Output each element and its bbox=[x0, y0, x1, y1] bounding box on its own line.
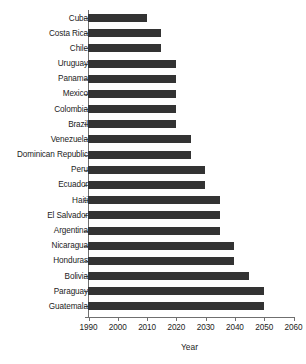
bar-category-label: Colombia bbox=[0, 105, 88, 114]
bar-category-label: Panama bbox=[0, 74, 88, 83]
bar bbox=[88, 181, 205, 189]
bar-category-label: Ecuador bbox=[0, 180, 88, 189]
bar-category-label: Dominican Republic bbox=[0, 150, 88, 159]
bar bbox=[88, 211, 220, 219]
bar bbox=[88, 120, 176, 128]
x-axis-tick bbox=[294, 317, 295, 321]
bar-category-label: Honduras bbox=[0, 256, 88, 265]
x-axis-tick bbox=[235, 317, 236, 321]
bar-category-label: Uruguay bbox=[0, 59, 88, 68]
bar bbox=[88, 151, 191, 159]
bar-category-label: Peru bbox=[0, 165, 88, 174]
bar bbox=[88, 227, 220, 235]
bar bbox=[88, 257, 234, 265]
bar bbox=[88, 287, 264, 295]
bar-category-label: Costa Rica bbox=[0, 29, 88, 38]
bar bbox=[88, 14, 147, 22]
bar bbox=[88, 29, 161, 37]
plot-area: CubaCosta RicaChileUruguayPanamaMexicoCo… bbox=[0, 0, 305, 364]
bar bbox=[88, 196, 220, 204]
bar-category-label: Brazil bbox=[0, 120, 88, 129]
bar-chart: CubaCosta RicaChileUruguayPanamaMexicoCo… bbox=[0, 0, 305, 364]
x-axis-tick bbox=[264, 317, 265, 321]
x-axis-tick bbox=[206, 317, 207, 321]
bar-category-label: Chile bbox=[0, 44, 88, 53]
bar-category-label: Mexico bbox=[0, 89, 88, 98]
bar bbox=[88, 44, 161, 52]
bar bbox=[88, 60, 176, 68]
bar-category-label: Guatemala bbox=[0, 302, 88, 311]
bar-category-label: Paraguay bbox=[0, 287, 88, 296]
bar bbox=[88, 75, 176, 83]
bar bbox=[88, 135, 191, 143]
bar-category-label: Cuba bbox=[0, 14, 88, 23]
x-axis-tick bbox=[118, 317, 119, 321]
x-axis-tick bbox=[147, 317, 148, 321]
x-axis-tick bbox=[89, 317, 90, 321]
bar bbox=[88, 90, 176, 98]
bar-category-label: Venezuela bbox=[0, 135, 88, 144]
bar bbox=[88, 272, 249, 280]
bar bbox=[88, 302, 264, 310]
x-axis-line bbox=[85, 317, 294, 318]
bar bbox=[88, 242, 234, 250]
x-axis-tick bbox=[176, 317, 177, 321]
bar-category-label: Haiti bbox=[0, 196, 88, 205]
bar bbox=[88, 166, 205, 174]
bar bbox=[88, 105, 176, 113]
bar-category-label: Nicaragua bbox=[0, 241, 88, 250]
bar-category-label: El Salvador bbox=[0, 211, 88, 220]
y-axis-line bbox=[88, 10, 89, 317]
x-axis-tick-label: 2060 bbox=[274, 323, 306, 333]
bar-category-label: Argentina bbox=[0, 226, 88, 235]
bar-category-label: Bolivia bbox=[0, 272, 88, 281]
x-axis-title: Year bbox=[85, 342, 294, 352]
